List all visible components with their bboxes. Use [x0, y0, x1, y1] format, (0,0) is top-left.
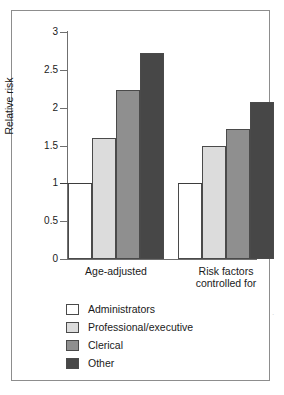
- y-tick-mark: [60, 108, 67, 109]
- figure-canvas: 00.511.522.53 Relative risk Age-adjusted…: [0, 0, 284, 395]
- legend-swatch: [66, 322, 79, 333]
- x-axis-label-line: Risk factors: [160, 265, 284, 277]
- bar: [226, 129, 250, 259]
- bar: [116, 90, 140, 259]
- y-tick-label: 2: [18, 103, 58, 113]
- bar: [140, 53, 164, 259]
- y-tick-label: 0.5: [18, 216, 58, 226]
- y-tick-label: 3: [18, 27, 58, 37]
- legend-label: Administrators: [88, 303, 155, 315]
- bar: [250, 102, 274, 259]
- legend-item: Other: [66, 354, 256, 372]
- y-tick-label: 1.5: [18, 141, 58, 151]
- scan-artifact: ·: [272, 311, 274, 318]
- legend-swatch: [66, 340, 79, 351]
- legend-label: Professional/executive: [88, 321, 193, 333]
- reference-line: [178, 183, 202, 184]
- bar: [68, 183, 92, 259]
- chart-legend: AdministratorsProfessional/executiveCler…: [66, 300, 256, 372]
- y-tick-mark: [60, 221, 67, 222]
- legend-label: Other: [88, 357, 114, 369]
- y-tick-label: 1: [18, 178, 58, 188]
- bar: [178, 183, 202, 259]
- y-tick-mark: [60, 146, 67, 147]
- legend-label: Clerical: [88, 339, 123, 351]
- y-tick-label: 2.5: [18, 65, 58, 75]
- y-tick-mark: [60, 70, 67, 71]
- x-axis-label-line: controlled for: [160, 277, 284, 289]
- legend-swatch: [66, 358, 79, 369]
- legend-item: Professional/executive: [66, 318, 256, 336]
- legend-swatch: [66, 304, 79, 315]
- y-tick-label: 0: [18, 254, 58, 264]
- reference-line: [60, 183, 92, 184]
- plot-area: [67, 32, 257, 259]
- y-tick-mark: [60, 32, 67, 33]
- legend-item: Administrators: [66, 300, 256, 318]
- y-tick-mark: [60, 259, 67, 260]
- x-axis-category-label: Risk factorscontrolled for: [160, 265, 284, 289]
- bar: [92, 138, 116, 259]
- bar: [202, 146, 226, 260]
- y-axis-title: Relative risk: [3, 36, 15, 176]
- x-axis-line: [60, 259, 257, 260]
- legend-item: Clerical: [66, 336, 256, 354]
